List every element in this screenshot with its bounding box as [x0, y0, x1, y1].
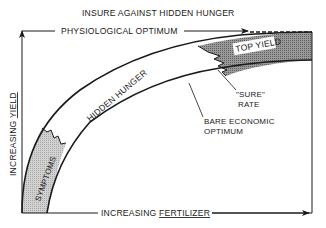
physiological-optimum-label: PHYSIOLOGICAL OPTIMUM: [61, 26, 178, 36]
bare-economic-label-line2: OPTIMUM: [204, 127, 243, 136]
bare-economic-leader: [189, 83, 203, 117]
x-axis-label: INCREASING FERTILIZER: [101, 208, 210, 218]
diagram-title: INSURE AGAINST HIDDEN HUNGER: [82, 8, 235, 18]
sure-rate-label-line2: RATE: [238, 100, 260, 109]
svg-text:INCREASING YIELD: INCREASING YIELD: [8, 92, 18, 176]
bare-economic-label-line1: BARE ECONOMIC: [204, 117, 275, 126]
sure-rate-label-line1: "SURE": [236, 90, 265, 99]
inner-yield-curve: [47, 60, 312, 213]
hidden-hunger-label: HIDDEN HUNGER: [85, 68, 149, 124]
y-axis-label: INCREASING YIELD: [7, 92, 19, 178]
yield-fertilizer-diagram: INSURE AGAINST HIDDEN HUNGER PHYSIOLOGIC…: [0, 0, 326, 228]
